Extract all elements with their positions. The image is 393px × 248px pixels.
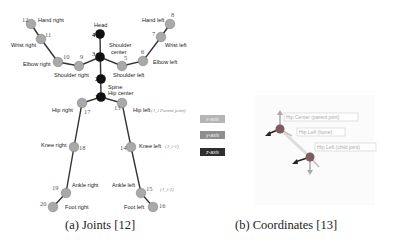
joint-14-knee-left <box>126 142 136 152</box>
joint-10-elbow-right <box>53 57 63 67</box>
num-15: 15 <box>146 185 153 192</box>
joint-20-foot-right <box>48 202 58 212</box>
joint-8-hand-left <box>165 19 175 29</box>
num-18: 18 <box>79 144 86 151</box>
label-shoulder: Shoulder <box>109 42 132 48</box>
caption-b: (b) Coordinates [13] <box>235 218 337 233</box>
label-shoulder-right: Shoulder right <box>54 72 89 78</box>
label-knee-left: Knee left <box>139 143 162 149</box>
label-hip-right: Hip right <box>52 107 73 113</box>
tag-bone: Hip Left (bone) <box>299 129 332 135</box>
num-14: 14 <box>120 144 127 151</box>
joint-18-knee-right <box>69 142 79 152</box>
num-6: 6 <box>141 48 145 55</box>
bones <box>31 24 170 207</box>
label-hip-center: Hip center <box>108 90 134 96</box>
num-8: 8 <box>171 11 174 18</box>
figure-b-coordinates: Hip Center (parent joint) Hip Left (bone… <box>255 95 376 205</box>
caption-a: (a) Joints [12] <box>65 218 135 233</box>
label-shoulder-left: Shoulder left <box>113 72 145 78</box>
legend-y-axis: y-axis <box>200 131 225 139</box>
num-2: 2 <box>95 75 98 82</box>
joint-19-ankle-right <box>61 188 71 198</box>
joint-7-wrist-left <box>156 32 166 42</box>
num-17: 17 <box>84 108 91 115</box>
label-wrist-left: Wrist left <box>165 42 187 48</box>
label-foot-right: Foot right <box>65 204 89 210</box>
label-hand-left: Hand left <box>142 17 165 23</box>
label-foot-left: Foot left <box>124 204 145 210</box>
num-19: 19 <box>52 184 59 191</box>
num-20: 20 <box>40 200 47 207</box>
num-10: 10 <box>63 53 70 60</box>
joint-labels: Spine Hip center Shoulder center Head Sh… <box>11 17 187 210</box>
joint-9-shoulder-right <box>74 61 84 71</box>
legend-z-axis: z-axis <box>200 148 225 156</box>
num-5: 5 <box>124 54 127 61</box>
joint-17-hip-right <box>77 98 87 108</box>
num-11: 11 <box>45 31 51 38</box>
annotation-ankle-left: (J_i-2) <box>160 187 174 192</box>
tag-child-joint: Hip Left (child joint) <box>317 144 360 150</box>
label-hand-right: Hand right <box>38 17 64 23</box>
annotation-knee-left: (J_i-1) <box>165 144 179 149</box>
label-elbow-right: Elbow right <box>23 61 51 67</box>
num-13: 13 <box>114 104 121 111</box>
joint-3-shoulder-center <box>95 52 105 62</box>
num-12: 12 <box>22 16 29 23</box>
child-joint <box>306 153 315 162</box>
num-16: 16 <box>159 202 166 209</box>
num-9: 9 <box>80 53 83 60</box>
joint-16-foot-left <box>148 202 158 212</box>
legend-x-axis: x-axis <box>200 115 225 123</box>
num-7: 7 <box>152 30 156 37</box>
label-elbow-left: Elbow left <box>153 59 178 65</box>
parent-joint <box>276 125 285 134</box>
annotation-hip-left: (J_i Parent joint) <box>151 108 186 113</box>
joint-4-head <box>95 29 105 39</box>
joint-6-elbow-left <box>138 56 148 66</box>
label-ankle-left: Ankle left <box>112 182 135 188</box>
label-center: center <box>111 49 127 55</box>
label-knee-right: Knee right <box>41 142 67 148</box>
label-ankle-right: Ankle right <box>72 182 99 188</box>
label-hip-left: Hip left <box>133 107 151 113</box>
figure-a-skeleton: 1 2 3 4 5 6 7 8 9 10 11 12 13 14 15 16 1… <box>0 0 393 248</box>
num-3: 3 <box>92 50 95 57</box>
tag-parent-joint: Hip Center (parent joint) <box>286 114 340 120</box>
num-1: 1 <box>95 93 98 100</box>
label-wrist-right: Wrist right <box>11 42 37 48</box>
joint-5-shoulder-left <box>117 61 127 71</box>
label-head: Head <box>94 22 107 28</box>
joint-15-ankle-left <box>136 188 146 198</box>
